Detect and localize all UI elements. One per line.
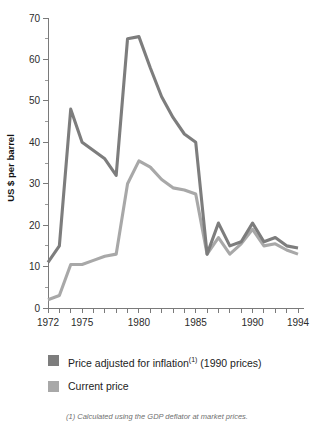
x-tick-label: 1985: [185, 317, 208, 328]
y-tick-label: 40: [29, 137, 41, 148]
legend-swatch-current: [48, 381, 59, 392]
y-tick-label: 20: [29, 220, 41, 231]
legend-item-current: Current price: [48, 380, 316, 392]
x-tick-label: 1980: [128, 317, 151, 328]
oil-price-line-chart: 010203040506070 197219751980198519901994…: [0, 0, 316, 340]
x-axis: 197219751980198519901994: [37, 308, 310, 328]
x-tick-label: 1990: [241, 317, 264, 328]
y-tick-label: 30: [29, 178, 41, 189]
y-tick-label: 50: [29, 95, 41, 106]
y-tick-label: 0: [34, 303, 40, 314]
data-series-group: [48, 37, 298, 300]
legend-item-adjusted: Price adjusted for inflation(1) (1990 pr…: [48, 354, 316, 369]
series-line-current-price: [48, 161, 298, 300]
legend-label-adjusted: Price adjusted for inflation(1) (1990 pr…: [68, 354, 262, 369]
chart-container: 010203040506070 197219751980198519901994…: [0, 0, 316, 340]
y-tick-label: 60: [29, 54, 41, 65]
chart-legend: Price adjusted for inflation(1) (1990 pr…: [48, 354, 316, 403]
x-tick-label: 1994: [287, 317, 310, 328]
y-tick-label: 10: [29, 261, 41, 272]
x-tick-label: 1972: [37, 317, 60, 328]
chart-footnote: (1) Calculated using the GDP deflator at…: [66, 412, 316, 422]
series-line-price-adjusted-for-inflation: [48, 37, 298, 263]
y-axis: 010203040506070: [29, 13, 48, 314]
legend-swatch-adjusted: [48, 355, 59, 366]
x-tick-label: 1975: [71, 317, 94, 328]
legend-footnote-marker: (1): [189, 356, 198, 363]
y-axis-title: US $ per barrel: [5, 134, 16, 202]
legend-label-current: Current price: [68, 380, 129, 392]
y-tick-label: 70: [29, 13, 41, 24]
